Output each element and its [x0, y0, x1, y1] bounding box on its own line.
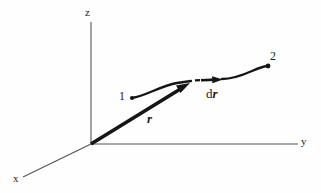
point-1-label: 1	[119, 90, 125, 102]
diagram-canvas	[0, 0, 321, 193]
differential-r-glyph: r	[213, 86, 218, 101]
point-2-marker	[266, 64, 271, 69]
point-2-label: 2	[270, 50, 276, 62]
x-axis-label: x	[13, 173, 19, 184]
z-axis-label: z	[85, 7, 90, 18]
position-vector-label: r	[147, 112, 152, 125]
trajectory-curve-segment-b	[222, 66, 268, 79]
vector-diagram-figure: z y x 1 2 r dr	[0, 0, 321, 193]
differential-vector-arrowhead	[212, 76, 223, 83]
differential-vector-label: dr	[206, 87, 218, 100]
x-axis-line	[23, 144, 91, 177]
y-axis-label: y	[301, 136, 307, 147]
point-1-marker	[130, 96, 134, 100]
